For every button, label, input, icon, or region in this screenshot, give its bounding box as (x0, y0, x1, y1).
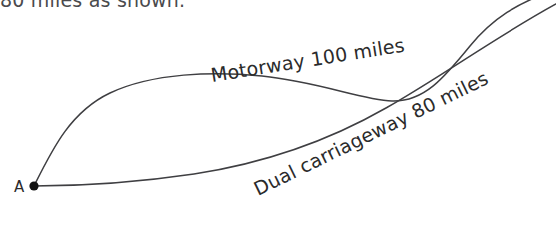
diagram-canvas: A Motorway 100 miles Dual carriageway 80… (0, 0, 556, 230)
node-dot-a (29, 181, 38, 190)
node-label-a: A (14, 178, 25, 196)
route-label-motorway: Motorway 100 miles (209, 34, 406, 86)
route-label-dual-carriageway: Dual carriageway 80 miles (250, 67, 492, 200)
route-diagram-figure: 80 miles as shown. A Motorway 100 miles … (0, 0, 556, 230)
cropped-footer-text (0, 226, 556, 230)
